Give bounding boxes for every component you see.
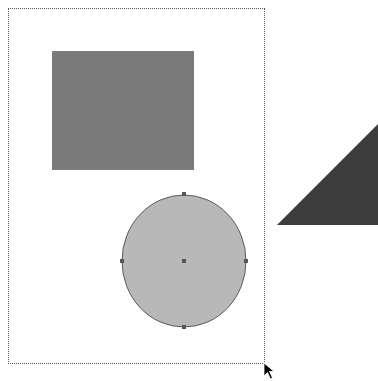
arrow-cursor-icon [263,362,279,381]
resize-handle-top[interactable] [182,192,186,196]
resize-handle-right[interactable] [244,259,248,263]
resize-handle-left[interactable] [120,259,124,263]
center-handle[interactable] [182,259,186,263]
selected-circle-shape[interactable] [120,192,248,329]
drawing-canvas[interactable] [0,0,378,381]
dark-triangle-shape[interactable] [277,124,378,225]
gray-rectangle-shape[interactable] [52,51,194,170]
resize-handle-bottom[interactable] [182,325,186,329]
